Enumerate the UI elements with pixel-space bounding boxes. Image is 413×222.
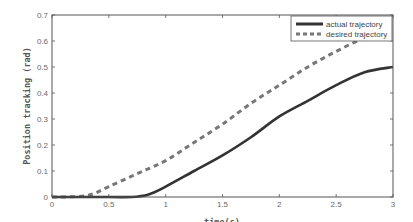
actual-trajectory-line [52,67,393,197]
legend-label-desired: desired trajectory [326,30,387,39]
y-tick-label: 0 [44,193,49,202]
legend-label-actual: actual trajectory [326,20,382,29]
y-tick-label: 0.4 [37,89,49,98]
x-tick-label: 1 [163,200,168,209]
y-tick-label: 0.2 [37,141,49,150]
position-tracking-chart: 00.511.522.5300.10.20.30.40.50.60.7 Posi… [0,0,413,222]
x-tick-label: 0 [50,200,55,209]
x-axis-label: time(s) [204,217,240,222]
series-layer [52,33,393,197]
y-tick-label: 0.1 [37,167,49,176]
x-tick-label: 1.5 [217,200,229,209]
x-tick-label: 2 [277,200,282,209]
x-tick-label: 3 [391,200,396,209]
desired-trajectory-line [52,33,393,197]
y-tick-label: 0.6 [37,37,49,46]
legend: actual trajectory desired trajectory [291,16,392,41]
x-tick-label: 0.5 [103,200,115,209]
y-tick-label: 0.5 [37,63,49,72]
y-tick-label: 0.3 [37,115,49,124]
y-tick-label: 0.7 [37,11,49,20]
axes-box [52,15,393,197]
y-axis-label: Position tracking (rad) [22,47,32,165]
x-tick-label: 2.5 [331,200,343,209]
